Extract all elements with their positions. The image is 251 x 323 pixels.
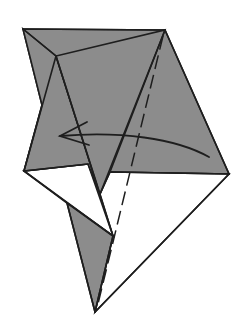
origami-diagram: [0, 0, 251, 323]
edge-top: [23, 29, 165, 30]
